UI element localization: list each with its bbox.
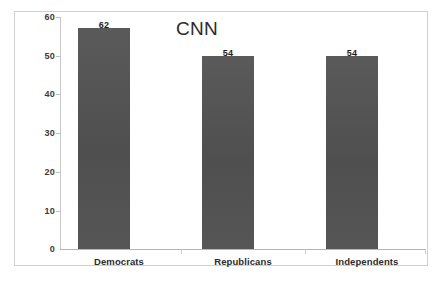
category-label-democrats: Democrats [64,257,174,267]
bar-value-label-republicans: 54 [202,49,254,58]
y-tick-label: 40 [27,90,55,99]
y-tick-label: 0 [27,245,55,254]
category-axis-line [60,249,426,250]
y-tick-label: 20 [27,167,55,176]
category-tick-mark [305,249,306,254]
category-label-independents: Independents [312,257,422,267]
bar-independents[interactable] [326,56,378,249]
y-tick-label: 10 [27,206,55,215]
category-label-republicans: Republicans [188,257,298,267]
chart-container: 60 50 40 30 20 10 0 62 54 54 De [0,0,438,282]
chart-frame: 60 50 40 30 20 10 0 62 54 54 De [14,11,428,266]
category-tick-mark [181,249,182,254]
y-tick-label: 30 [27,129,55,138]
bar-republicans[interactable] [202,56,254,249]
chart-title: CNN [176,19,218,38]
y-tick-label: 60 [27,13,55,22]
bar-value-label-democrats: 62 [78,21,130,30]
y-axis: 60 50 40 30 20 10 0 [23,12,55,265]
category-tick-mark [425,249,426,254]
bar-democrats[interactable] [78,28,130,249]
bar-value-label-independents: 54 [326,49,378,58]
y-tick-label: 50 [27,51,55,60]
